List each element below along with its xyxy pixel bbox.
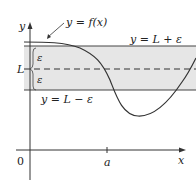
x-axis-label: x [178, 154, 185, 167]
upper-bound-label: y = L + ε [129, 33, 182, 46]
y-axis-label: y [18, 20, 26, 33]
y-axis-arrow-icon [28, 22, 33, 29]
lower-bound-label: y = L − ε [40, 93, 93, 106]
x-axis-arrow-icon [179, 148, 186, 153]
limit-at-infinity-diagram: y = f(x) y = L + ε y = L − ε L ε ε y x 0… [0, 0, 196, 183]
epsilon-top-label: ε [37, 52, 42, 63]
curve-pointer [48, 23, 64, 37]
origin-label: 0 [17, 155, 24, 168]
L-label: L [16, 63, 24, 76]
curve-label: y = f(x) [65, 16, 107, 29]
epsilon-bottom-label: ε [37, 74, 42, 85]
a-label: a [104, 156, 111, 169]
epsilon-band [24, 46, 196, 90]
